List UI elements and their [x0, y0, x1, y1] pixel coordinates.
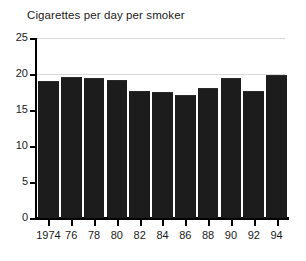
- y-tick-label-5: 5: [22, 176, 28, 187]
- bar-94: [266, 75, 287, 218]
- y-tick-label-0: 0: [22, 212, 28, 223]
- y-tick-label-20: 20: [16, 68, 28, 79]
- y-tick-label-15: 15: [16, 104, 28, 115]
- y-tick-mark-0: [30, 218, 36, 220]
- bar-1974: [38, 81, 59, 218]
- bar-88: [198, 88, 219, 218]
- bar-92: [243, 91, 264, 218]
- x-tick-mark-78: [94, 220, 96, 226]
- x-tick-mark-94: [277, 220, 279, 226]
- x-tick-label-94: 94: [257, 230, 297, 241]
- x-tick-mark-86: [185, 220, 187, 226]
- bar-90: [221, 78, 242, 218]
- bar-86: [175, 95, 196, 218]
- chart-title: Cigarettes per day per smoker: [27, 9, 185, 21]
- y-tick-label-25: 25: [16, 32, 28, 43]
- x-tick-mark-84: [162, 220, 164, 226]
- plot-area: [36, 38, 288, 218]
- bar-chart: Cigarettes per day per smoker 0510152025…: [0, 0, 306, 261]
- bar-80: [107, 80, 128, 218]
- x-tick-mark-82: [140, 220, 142, 226]
- x-tick-mark-76: [71, 220, 73, 226]
- bar-76: [61, 77, 82, 218]
- y-tick-label-10: 10: [16, 140, 28, 151]
- x-tick-mark-1974: [48, 220, 50, 226]
- x-tick-mark-88: [208, 220, 210, 226]
- bar-78: [84, 78, 105, 218]
- bar-82: [129, 91, 150, 218]
- x-tick-mark-92: [254, 220, 256, 226]
- x-tick-mark-90: [231, 220, 233, 226]
- x-tick-mark-80: [117, 220, 119, 226]
- bar-84: [152, 92, 173, 218]
